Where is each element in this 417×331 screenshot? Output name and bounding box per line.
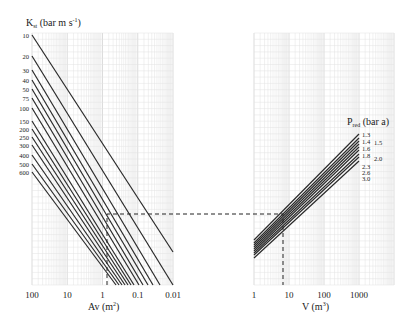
- legend-side-label: 1.5: [374, 139, 382, 146]
- nomogram-chart: Kst (bar m s-1) 102030405075100150200250…: [0, 0, 417, 331]
- left-y-axis-title: Kst (bar m s-1): [26, 17, 81, 29]
- right-x-tick: 1000: [350, 290, 369, 300]
- legend-label: 3.0: [362, 175, 370, 182]
- left-series-label: 30: [23, 67, 30, 74]
- left-grid: [32, 33, 173, 285]
- legend-side-label: 2.0: [374, 155, 382, 162]
- left-series-label: 600: [19, 169, 29, 176]
- left-series-label: 150: [19, 118, 29, 125]
- left-series-label: 10: [23, 32, 30, 39]
- left-series-label: 500: [19, 161, 29, 168]
- right-x-tick: 100: [317, 290, 331, 300]
- right-x-axis-title: V (m3): [302, 301, 329, 313]
- right-x-tick: 10: [285, 290, 295, 300]
- left-series-label: 40: [23, 77, 30, 84]
- left-series-label: 75: [23, 95, 30, 102]
- right-grid: [254, 33, 394, 285]
- legend-label: 1.4: [362, 138, 371, 145]
- left-x-tick: 1: [100, 290, 105, 300]
- left-x-tick: 10: [63, 290, 73, 300]
- right-x-tick-labels: 1101001000: [252, 290, 369, 300]
- legend-label: 1.6: [362, 145, 371, 152]
- left-series-label: 300: [19, 142, 29, 149]
- left-series-label: 400: [19, 152, 29, 159]
- right-legend-labels: 1.31.41.61.82.32.63.01.52.0: [362, 131, 382, 182]
- left-x-tick-labels: 1001010.10.01: [25, 290, 181, 300]
- left-series-label: 200: [19, 126, 29, 133]
- left-series-label: 250: [19, 134, 29, 141]
- left-series-label: 50: [23, 86, 30, 93]
- left-x-tick: 100: [25, 290, 39, 300]
- left-x-axis-title: Av (m2): [88, 301, 119, 313]
- left-series-line: [32, 164, 119, 285]
- legend-label: 1.8: [362, 152, 370, 159]
- left-series-line: [32, 108, 139, 285]
- left-x-tick: 0.1: [132, 290, 143, 300]
- left-series-label: 100: [19, 105, 29, 112]
- left-x-tick: 0.01: [165, 290, 181, 300]
- left-series-label: 20: [23, 53, 30, 60]
- right-legend-title: Pred (bar a): [347, 116, 389, 128]
- legend-label: 1.3: [362, 131, 370, 138]
- right-x-tick: 1: [252, 290, 257, 300]
- left-series-labels: 102030405075100150200250300400500600: [19, 32, 29, 176]
